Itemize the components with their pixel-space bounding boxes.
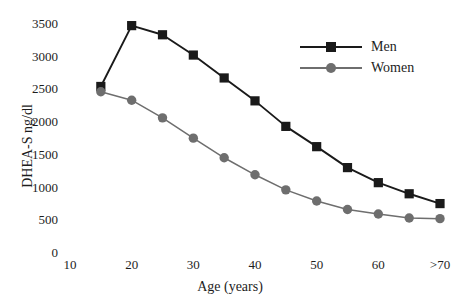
chart-legend: MenWomen: [300, 36, 414, 78]
legend-swatch: [300, 61, 362, 75]
data-point-marker: [343, 163, 352, 172]
data-point-marker: [404, 213, 413, 222]
legend-label: Women: [371, 60, 414, 76]
data-point-marker: [374, 209, 383, 218]
series-line: [101, 92, 440, 219]
x-tick-label: 30: [187, 258, 200, 271]
y-tick-label: 3000: [0, 49, 58, 62]
legend-marker-square: [326, 42, 336, 52]
data-point-marker: [405, 189, 414, 198]
data-point-marker: [281, 122, 290, 131]
data-point-marker: [219, 153, 228, 162]
y-tick-label: 0: [0, 246, 58, 259]
legend-swatch: [300, 40, 362, 54]
series-women: [96, 87, 445, 223]
x-tick-label: 50: [310, 258, 323, 271]
x-tick-label: 10: [64, 258, 77, 271]
x-tick-label: >70: [430, 258, 450, 271]
data-point-marker: [250, 96, 259, 105]
chart-figure: 0500100015002000250030003500 10203040506…: [0, 0, 460, 307]
data-point-marker: [312, 142, 321, 151]
legend-item-women: Women: [300, 57, 414, 78]
data-point-marker: [250, 170, 259, 179]
legend-label: Men: [371, 39, 397, 55]
y-axis-title: DHEA-S ng/dl: [20, 66, 36, 226]
data-point-marker: [158, 113, 167, 122]
data-point-marker: [312, 196, 321, 205]
data-point-marker: [127, 96, 136, 105]
data-point-marker: [343, 205, 352, 214]
y-tick-label: 3500: [0, 17, 58, 30]
data-point-marker: [281, 185, 290, 194]
data-point-marker: [158, 30, 167, 39]
legend-item-men: Men: [300, 36, 414, 57]
x-tick-label: 60: [372, 258, 385, 271]
data-point-marker: [189, 50, 198, 59]
data-point-marker: [374, 178, 383, 187]
data-point-marker: [127, 21, 136, 30]
data-point-marker: [220, 73, 229, 82]
data-point-marker: [189, 133, 198, 142]
x-tick-label: 20: [125, 258, 138, 271]
x-axis-title: Age (years): [0, 279, 460, 295]
legend-marker-circle: [326, 63, 336, 73]
data-point-marker: [435, 199, 444, 208]
x-tick-label: 40: [249, 258, 262, 271]
data-point-marker: [435, 214, 444, 223]
data-point-marker: [96, 87, 105, 96]
